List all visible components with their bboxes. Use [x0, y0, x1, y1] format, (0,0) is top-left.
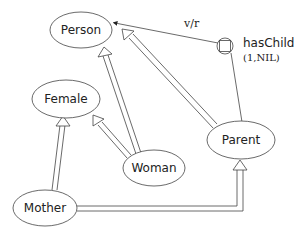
subsumption-arrow-mother-female: [52, 116, 70, 190]
concept-diagram: v/r hasChild (1,NIL) Person Female Woman…: [0, 0, 295, 237]
concept-label: Female: [44, 92, 87, 106]
role-link-parent-haschild: [231, 53, 242, 122]
vr-label: v/r: [183, 17, 200, 30]
concept-woman[interactable]: Woman: [123, 150, 185, 186]
role-restriction-label: (1,NIL): [243, 52, 280, 63]
subsumption-arrow-woman-person: [98, 47, 141, 154]
concept-parent[interactable]: Parent: [207, 121, 275, 159]
concept-label: Mother: [24, 201, 66, 215]
role-node-haschild[interactable]: [217, 38, 233, 54]
concept-female[interactable]: Female: [32, 80, 100, 118]
concept-label: Parent: [222, 133, 261, 147]
concept-label: Woman: [131, 161, 176, 175]
role-label: hasChild: [243, 36, 294, 50]
concept-person[interactable]: Person: [50, 12, 112, 48]
concept-label: Person: [61, 23, 101, 37]
concept-mother[interactable]: Mother: [13, 190, 77, 226]
subsumption-arrow-parent-person: [122, 29, 217, 128]
